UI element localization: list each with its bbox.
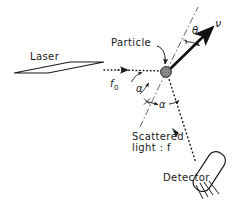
alpha-lower-cross-tick xyxy=(144,99,150,105)
incident-beam-segment-2 xyxy=(118,70,162,71)
alpha-lower-label: α xyxy=(159,99,166,110)
alpha-upper-arc-to-beam xyxy=(132,73,143,83)
incident-frequency-label: f0 xyxy=(110,78,119,93)
theta-label: θ xyxy=(192,25,199,36)
alpha-lower-arc-to-beam xyxy=(169,101,179,105)
laser-label: Laser xyxy=(30,51,59,62)
scattered-light-line-2: light : f xyxy=(132,142,171,153)
particle-label-leader xyxy=(157,46,165,64)
velocity-label: ν xyxy=(215,18,222,30)
particle-label: Particle xyxy=(111,37,151,48)
velocity-vector xyxy=(167,28,212,72)
incident-frequency-subscript: 0 xyxy=(114,84,119,92)
alpha-upper-label: α xyxy=(136,83,143,94)
reference-axis-upper xyxy=(166,7,198,72)
figure-canvas: Laser Particle f0 α α θ ν Scatteredlight… xyxy=(0,0,241,208)
particle-marker xyxy=(161,67,172,78)
scattered-light-label: Scatteredlight : f xyxy=(132,131,184,153)
detector-label: Detector xyxy=(163,172,210,183)
theta-angle-tick xyxy=(184,40,187,44)
laser-source-body xyxy=(14,62,104,73)
scattered-light-line-1: Scattered xyxy=(132,131,184,142)
